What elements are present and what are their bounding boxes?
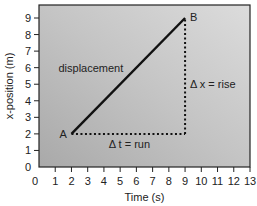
x-tick-label: 1 [52,175,58,187]
annotation: Δ t = run [109,138,150,150]
point-label-a: A [59,128,67,140]
y-tick-label: 4 [25,95,31,107]
y-tick-label: 3 [25,111,31,123]
y-tick-label: 1 [25,144,31,156]
y-tick-label: 5 [25,78,31,90]
x-tick-label: 7 [150,175,156,187]
point-label-b: B [190,11,197,23]
x-tick-label: 3 [85,175,91,187]
x-tick-label: 13 [244,175,256,187]
annotation: displacement [58,62,123,74]
x-tick-label: 2 [68,175,74,187]
x-tick-label: 0 [32,175,38,187]
x-tick-label: 8 [166,175,172,187]
y-tick-label: 0 [25,161,31,173]
x-tick-label: 5 [117,175,123,187]
annotation: Δ x = rise [190,78,236,90]
y-axis-label: x-position (m) [3,53,15,120]
y-tick-label: 2 [25,128,31,140]
x-tick-label: 10 [195,175,207,187]
y-tick-label: 7 [25,45,31,57]
x-tick-label: 6 [133,175,139,187]
x-tick-label: 4 [101,175,107,187]
x-axis-label: Time (s) [125,191,165,203]
x-tick-label: 9 [182,175,188,187]
position-time-chart: 0123456789012345678910111213Time (s)x-po… [0,0,257,206]
y-tick-label: 9 [25,12,31,24]
y-tick-label: 8 [25,29,31,41]
x-tick-label: 12 [228,175,240,187]
y-tick-label: 6 [25,62,31,74]
x-tick-label: 11 [212,175,223,187]
